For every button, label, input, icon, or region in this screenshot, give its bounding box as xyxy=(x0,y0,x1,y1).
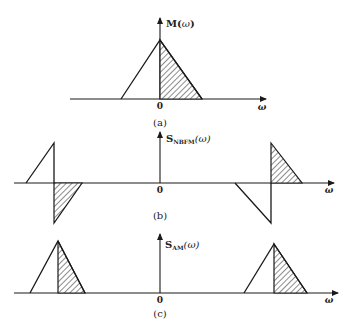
caption-c: (c) xyxy=(153,308,167,319)
origin-label-c: 0 xyxy=(157,295,163,305)
xlabel-b: ω xyxy=(325,185,334,195)
nbfm-left-inverted-hatched xyxy=(54,183,82,223)
panel-c: SAM(ω) 0 ω (c) xyxy=(14,234,338,319)
ylabel-c: SAM(ω) xyxy=(165,239,200,251)
ylabel-a: M(ω) xyxy=(166,18,195,29)
nbfm-left-upper-triangle xyxy=(26,143,54,183)
ylabel-b: SNBFM(ω) xyxy=(166,133,211,145)
panel-a: M(ω) 0 ω (a) xyxy=(70,18,267,128)
origin-label-a: 0 xyxy=(157,101,163,111)
xlabel-c: ω xyxy=(325,295,334,305)
panel-b: SNBFM(ω) 0 ω (b) xyxy=(14,132,334,223)
xlabel-a: ω xyxy=(258,102,267,112)
caption-b: (b) xyxy=(153,210,167,221)
caption-a: (a) xyxy=(153,117,167,128)
origin-label-b: 0 xyxy=(157,185,163,195)
spectrum-figure: M(ω) 0 ω (a) SNBFM(ω) 0 ω (b) SAM(ω) xyxy=(0,0,352,333)
nbfm-right-inverted-triangle xyxy=(235,183,271,223)
nbfm-right-hatched xyxy=(271,143,302,183)
